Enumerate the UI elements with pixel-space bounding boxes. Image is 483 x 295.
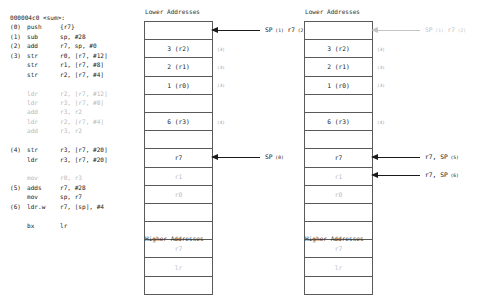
stack-cell xyxy=(145,204,212,222)
stack-cell-value xyxy=(177,136,181,143)
listing-mnemonic: ldr xyxy=(27,89,60,98)
listing-step-index: (0) xyxy=(10,22,27,31)
listing-step-index: (4) xyxy=(10,145,27,154)
listing-line: bxlr xyxy=(10,221,108,230)
listing-mnemonic: add xyxy=(27,107,60,116)
listing-operands: sp, #28 xyxy=(60,32,86,41)
stack-cell: 6 (r3)(4) xyxy=(305,113,372,131)
arrow-shaft xyxy=(378,157,420,158)
stack-cell xyxy=(305,22,372,40)
listing-line xyxy=(10,164,108,173)
stack-cell-value: 3 (r2) xyxy=(327,45,350,52)
listing-line xyxy=(10,79,108,88)
lower-addresses-label: Lower Addresses xyxy=(145,8,200,15)
higher-addresses-label: Higher Addresses xyxy=(145,235,204,242)
annotation-step-subscript: (6) xyxy=(448,173,459,178)
listing-line: (5)addsr7, #28 xyxy=(10,183,108,192)
stack-cell-step-marker: (3) xyxy=(217,64,225,69)
listing-operands: r7, #28 xyxy=(60,183,86,192)
stack-cell: 1 (r0)(3) xyxy=(305,77,372,95)
listing-line: (2)addr7, sp, #0 xyxy=(10,41,108,50)
listing-step-index: (5) xyxy=(10,183,27,192)
stack-cell: r0 xyxy=(305,186,372,204)
stack-cell: 6 (r3)(4) xyxy=(145,113,212,131)
stack-cell-value xyxy=(177,27,181,34)
stack-cell: r1 xyxy=(145,168,212,186)
annotation-step-subscript: (5) xyxy=(448,155,459,160)
stack-cell-step-marker: (3) xyxy=(377,83,385,88)
listing-operands: r3, [r7, #8] xyxy=(60,98,104,107)
annotation-register-secondary: r7 xyxy=(444,25,455,32)
listing-mnemonic: push xyxy=(27,22,60,31)
annotation-register: r7, SP xyxy=(425,153,448,160)
stack-cell: r7 xyxy=(145,149,212,167)
listing-operands: r2, [r7, #4] xyxy=(60,117,104,126)
stack-cell-value: r1 xyxy=(335,173,343,180)
stack-cell: 3 (r2)(3) xyxy=(305,40,372,58)
stack-cell xyxy=(145,131,212,149)
listing-line: movsp, r7 xyxy=(10,192,108,201)
stack-cell: 1 (r0)(3) xyxy=(145,77,212,95)
listing-operands: r0, r3 xyxy=(60,173,82,182)
stack-cell-value xyxy=(337,100,341,107)
arrow-head-icon xyxy=(371,154,378,160)
stack-cell xyxy=(145,22,212,40)
stack-cell-value: 6 (r3) xyxy=(167,118,190,125)
stack-cell-step-marker: (3) xyxy=(217,46,225,51)
listing-mnemonic: ldr xyxy=(27,117,60,126)
listing-mnemonic: add xyxy=(27,126,60,135)
stack-cell-value: r7 xyxy=(175,154,183,161)
listing-operands: r2, [r7, #4] xyxy=(60,70,104,79)
annotation-register: r7, SP xyxy=(425,171,448,178)
stack-cell: r0 xyxy=(145,186,212,204)
listing-line: ldrr2, [r7, #12] xyxy=(10,89,108,98)
listing-mnemonic: str xyxy=(27,60,60,69)
stack-cell-value: 6 (r3) xyxy=(327,118,350,125)
stack-cell-value: r7 xyxy=(335,154,343,161)
stack-cell-step-marker: (3) xyxy=(217,83,225,88)
stack-cell-value: r7 xyxy=(175,245,183,252)
arrow-shaft xyxy=(378,175,420,176)
stack-cell xyxy=(305,277,372,295)
annotation-label: SP (1) r7 (2) xyxy=(265,26,306,33)
higher-addresses-label: Higher Addresses xyxy=(305,235,364,242)
stack-cell xyxy=(305,204,372,222)
stack-cell-value: 2 (r1) xyxy=(327,63,350,70)
stack-cell-value: lr xyxy=(335,264,343,271)
listing-line: movr0, r3 xyxy=(10,173,108,182)
listing-line: ldrr3, [r7, #8] xyxy=(10,98,108,107)
listing-line: strr2, [r7, #4] xyxy=(10,70,108,79)
listing-step-index: (3) xyxy=(10,51,27,60)
listing-operands: r3, [r7, #20] xyxy=(60,145,108,154)
listing-operands: lr xyxy=(60,221,67,230)
stack-cell: r7 xyxy=(305,240,372,258)
listing-operands: r3, r2 xyxy=(60,126,82,135)
stack-cell: r7 xyxy=(305,149,372,167)
stack-cell-value: 3 (r2) xyxy=(167,45,190,52)
stack-cell: r1 xyxy=(305,168,372,186)
stack-cell-column: 3 (r2)(3)2 (r1)(3)1 (r0)(3) 6 (r3)(4) r7… xyxy=(304,21,373,295)
listing-line: addr3, r2 xyxy=(10,126,108,135)
annotation-register: SP xyxy=(425,25,433,32)
stack-cell: 2 (r1)(3) xyxy=(145,58,212,76)
annotation-label: r7, SP (6) xyxy=(425,172,459,179)
listing-line: strr1, [r7, #8] xyxy=(10,60,108,69)
listing-mnemonic: bx xyxy=(27,221,60,230)
listing-operands: r7, [sp], #4 xyxy=(60,202,104,211)
stack-cell-column: 3 (r2)(3)2 (r1)(3)1 (r0)(3) 6 (r3)(4) r7… xyxy=(144,21,213,295)
listing-operands: r2, [r7, #12] xyxy=(60,89,108,98)
stack-cell-step-marker: (3) xyxy=(377,46,385,51)
listing-line: (3)strr0, [r7, #12] xyxy=(10,51,108,60)
annotation-label: SP (1) r7 (2) xyxy=(425,26,466,33)
stack-cell-value: r1 xyxy=(175,173,183,180)
stack-cell: r7 xyxy=(145,240,212,258)
stack-cell: 2 (r1)(3) xyxy=(305,58,372,76)
listing-operands: r3, r2 xyxy=(60,107,82,116)
listing-line: (1)subsp, #28 xyxy=(10,32,108,41)
annotation-register: SP xyxy=(265,25,273,32)
disassembly-listing: 000004c0 <sum>:(0)push{r7}(1)subsp, #28(… xyxy=(10,13,108,230)
listing-step-index: (2) xyxy=(10,41,27,50)
stack-cell-value: lr xyxy=(175,264,183,271)
stack-cell-value xyxy=(177,209,181,216)
